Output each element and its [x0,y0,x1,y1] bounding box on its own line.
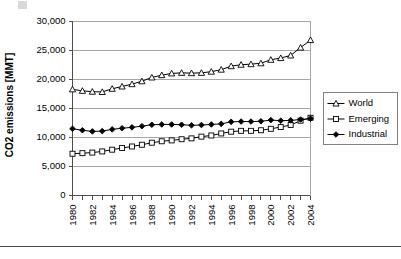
marker-emerging-1987 [139,142,144,147]
chart-legend[interactable]: WorldEmergingIndustrial [324,93,398,145]
y-tick-label-25000: 25,000 [36,44,65,55]
marker-emerging-1983 [100,149,105,154]
marker-emerging-1996 [229,129,234,134]
marker-emerging-1998 [249,128,254,133]
marker-emerging-1989 [159,139,164,144]
x-tick-label-1986: 1986 [127,205,138,226]
y-tick-label-15000: 15,000 [36,102,65,113]
marker-emerging-1993 [199,134,204,139]
x-tick-label-1994: 1994 [206,205,217,226]
x-tick-label-1990: 1990 [166,205,177,226]
x-tick-label-1992: 1992 [186,205,197,226]
x-tick-label-1982: 1982 [87,205,98,226]
x-tick-label-1988: 1988 [146,205,157,226]
x-tick-label-1984: 1984 [107,205,118,226]
y-tick-label-30000: 30,000 [36,15,65,26]
marker-emerging-1986 [130,144,135,149]
corner-artifact [18,1,27,9]
marker-emerging-1991 [179,137,184,142]
chart-figure: 05,00010,00015,00020,00025,00030,000 198… [0,0,401,259]
marker-emerging-1984 [110,147,115,152]
x-tick-label-2004: 2004 [305,205,316,226]
marker-emerging-2001 [278,125,283,130]
x-tick-label-1980: 1980 [67,205,78,226]
legend-label-industrial: Industrial [349,128,388,139]
legend-marker-emerging [334,117,339,122]
marker-emerging-1994 [209,133,214,138]
marker-emerging-1990 [169,138,174,143]
marker-emerging-1988 [149,140,154,145]
marker-emerging-1997 [239,128,244,133]
marker-emerging-1982 [90,150,95,155]
x-tick-label-1996: 1996 [226,205,237,226]
x-tick-label-2002: 2002 [285,205,296,226]
marker-emerging-1985 [120,145,125,150]
marker-emerging-1992 [189,136,194,141]
marker-emerging-1999 [258,128,263,133]
x-tick-label-2000: 2000 [265,205,276,226]
marker-emerging-1981 [80,151,85,156]
y-tick-label-0: 0 [60,189,65,200]
marker-emerging-1980 [70,151,75,156]
marker-emerging-1995 [219,131,224,136]
co2-emissions-line-chart: 05,00010,00015,00020,00025,00030,000 198… [0,0,401,259]
y-tick-label-5000: 5,000 [42,160,66,171]
legend-label-world: World [349,97,374,108]
legend-label-emerging: Emerging [349,113,390,124]
x-tick-label-1998: 1998 [246,205,257,226]
y-tick-label-10000: 10,000 [36,131,65,142]
marker-emerging-2000 [268,126,273,131]
y-tick-label-20000: 20,000 [36,73,65,84]
y-axis-title: CO2 emissions [MMT] [4,53,15,157]
